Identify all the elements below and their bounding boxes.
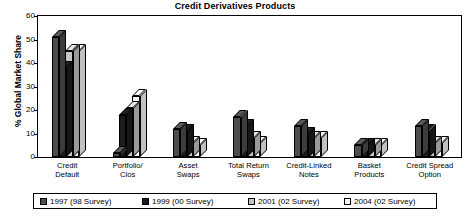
bar-front-face	[233, 117, 240, 157]
chart-legend: 1997 (98 Survey)1999 (00 Survey)2001 (02…	[33, 193, 437, 209]
chart-container: Credit Derivatives Products % Global Mar…	[0, 0, 470, 217]
bar-group	[98, 16, 158, 157]
bar-side-face	[79, 44, 86, 157]
bar-front-face	[52, 37, 59, 157]
bar-side-face	[73, 44, 80, 157]
y-tick-label: 20	[21, 106, 35, 114]
y-tick-label: 50	[21, 36, 35, 44]
legend-label: 2004 (02 Survey)	[354, 197, 415, 206]
bar	[415, 126, 422, 157]
legend-swatch	[142, 198, 149, 205]
bar	[233, 117, 240, 157]
bar	[113, 153, 120, 157]
bar	[173, 129, 180, 157]
legend-swatch	[248, 198, 255, 205]
bar-side-face	[140, 89, 147, 157]
x-axis-label-line: Option	[394, 170, 466, 179]
bar-group	[401, 16, 461, 157]
y-tick-label: 10	[21, 130, 35, 138]
bar-side-face	[59, 30, 66, 157]
y-tick-label: 0	[21, 153, 35, 161]
bar-side-face	[241, 110, 248, 157]
bar-front-face	[113, 153, 120, 157]
y-tick-mark	[34, 157, 38, 158]
legend-label: 2001 (02 Survey)	[258, 197, 319, 206]
chart-title: Credit Derivatives Products	[0, 1, 470, 11]
bar-front-face	[354, 145, 361, 157]
bar-side-face	[126, 108, 133, 157]
bar-side-face	[66, 61, 73, 157]
legend-swatch	[344, 198, 351, 205]
legend-item[interactable]: 1999 (00 Survey)	[142, 197, 213, 206]
bar-group	[219, 16, 279, 157]
legend-label: 1999 (00 Survey)	[152, 197, 213, 206]
y-tick-label: 40	[21, 59, 35, 67]
legend-label: 1997 (98 Survey)	[50, 197, 111, 206]
bar-group	[38, 16, 98, 157]
bar-group	[340, 16, 400, 157]
bar-side-face	[133, 101, 140, 157]
bar-front-face	[173, 129, 180, 157]
legend-item[interactable]: 1997 (98 Survey)	[40, 197, 111, 206]
bar	[52, 37, 59, 157]
legend-swatch	[40, 198, 47, 205]
bar	[354, 145, 361, 157]
y-tick-label: 30	[21, 83, 35, 91]
bar-front-face	[415, 126, 422, 157]
x-axis-label-line: Credit Spread	[394, 161, 466, 170]
legend-item[interactable]: 2004 (02 Survey)	[344, 197, 415, 206]
y-tick-label: 60	[21, 12, 35, 20]
plot-area: 0102030405060	[37, 15, 462, 158]
x-axis-label: Credit SpreadOption	[394, 161, 466, 179]
bar-group	[280, 16, 340, 157]
bar-group	[159, 16, 219, 157]
bar	[294, 126, 301, 157]
legend-item[interactable]: 2001 (02 Survey)	[248, 197, 319, 206]
bar-front-face	[294, 126, 301, 157]
